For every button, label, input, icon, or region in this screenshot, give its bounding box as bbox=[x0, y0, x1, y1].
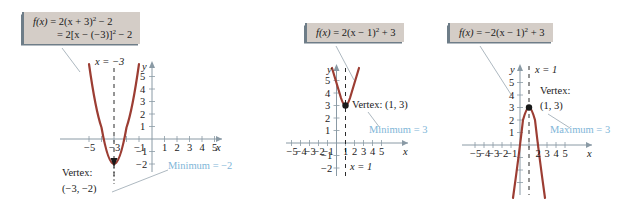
formula-line-2: = 2[x − (−3)]2 − 2 bbox=[33, 28, 132, 41]
y-tick-label: 2 bbox=[325, 113, 330, 124]
y-tick-label: −2 bbox=[321, 163, 332, 174]
x-tick-label: 5 bbox=[563, 148, 568, 159]
y-tick-label: 1 bbox=[509, 127, 514, 138]
y-tick-label: 3 bbox=[325, 100, 330, 111]
axis-of-symmetry-label-1: x = −3 bbox=[95, 56, 124, 67]
y-tick-label: 3 bbox=[140, 96, 145, 107]
x-tick-label: 3 bbox=[545, 148, 550, 159]
y-axis-label-2: y bbox=[327, 64, 332, 75]
formula-line-1: f(x) = −2(x − 1)2 + 3 bbox=[459, 26, 545, 39]
formula-box-2: f(x) = 2(x − 1)2 + 3 bbox=[305, 23, 404, 42]
y-tick-label: −1 bbox=[321, 150, 332, 161]
x-tick-label: 1 bbox=[162, 142, 167, 153]
minimum-label-2: Minimum = 3 bbox=[369, 124, 427, 135]
x-tick-label: −3 bbox=[109, 142, 120, 153]
vertex-label-2: Vertex: (1, 3) bbox=[352, 99, 408, 110]
panel-3: f(x) = −2(x − 1)2 + 3 bbox=[420, 0, 640, 202]
maximum-label-3: Maximum = 3 bbox=[550, 124, 610, 135]
quadratic-vertex-form-figure: f(x) = 2(x + 3)2 − 2 = 2[x − (−3)]2 − 2 bbox=[0, 0, 640, 202]
formula-line-1: f(x) = 2(x − 1)2 + 3 bbox=[316, 26, 396, 39]
x-axis-label-3: x bbox=[587, 148, 592, 159]
x-tick-label: 4 bbox=[554, 148, 559, 159]
y-tick-label: 5 bbox=[325, 75, 330, 86]
y-axis-1 bbox=[149, 61, 155, 172]
y-axis-label-3: y bbox=[510, 64, 515, 75]
x-tick-label: 1 bbox=[343, 146, 348, 157]
y-tick-label: 4 bbox=[140, 84, 145, 95]
formula-line-1: f(x) = 2(x + 3)2 − 2 bbox=[33, 15, 132, 28]
formula-box-1: f(x) = 2(x + 3)2 − 2 = 2[x − (−3)]2 − 2 bbox=[22, 12, 140, 44]
x-tick-label: 2 bbox=[352, 146, 357, 157]
vertex-label-3: Vertex: bbox=[540, 85, 570, 96]
x-tick-label: 2 bbox=[175, 142, 180, 153]
vertex-dot-2 bbox=[342, 102, 348, 108]
vertex-point-1: (−3, −2) bbox=[62, 183, 97, 194]
leader-line-minimum-1 bbox=[112, 170, 168, 192]
y-tick-label: −1 bbox=[136, 146, 147, 157]
y-tick-label: 1 bbox=[325, 125, 330, 136]
x-tick-label: 4 bbox=[370, 146, 375, 157]
leader-line-formula-1 bbox=[62, 48, 80, 72]
x-tick-label: −1 bbox=[506, 148, 517, 159]
x-tick-label: 3 bbox=[361, 146, 366, 157]
x-tick-label: 2 bbox=[536, 148, 541, 159]
x-tick-label: 5 bbox=[212, 142, 217, 153]
x-tick-label: 3 bbox=[187, 142, 192, 153]
formula-box-3: f(x) = −2(x − 1)2 + 3 bbox=[448, 23, 553, 42]
leader-line-formula-3 bbox=[480, 46, 512, 96]
panel-1: f(x) = 2(x + 3)2 − 2 = 2[x − (−3)]2 − 2 bbox=[0, 0, 228, 202]
axis-of-symmetry-label-2: x = 1 bbox=[350, 161, 372, 172]
y-tick-label: 5 bbox=[509, 77, 514, 88]
x-axis-label-2: x bbox=[403, 146, 408, 157]
panel-2: f(x) = 2(x − 1)2 + 3 bbox=[228, 0, 420, 202]
y-tick-label: 4 bbox=[325, 88, 330, 99]
y-tick-label: −2 bbox=[136, 159, 147, 170]
vertex-dot-3 bbox=[526, 104, 532, 110]
x-tick-label: 4 bbox=[200, 142, 205, 153]
y-tick-label: 1 bbox=[140, 121, 145, 132]
vertex-label-1: Vertex: bbox=[62, 167, 92, 178]
x-tick-label: 5 bbox=[379, 146, 384, 157]
y-tick-label: 4 bbox=[509, 90, 514, 101]
y-tick-label: 2 bbox=[140, 109, 145, 120]
y-tick-label: 2 bbox=[509, 115, 514, 126]
leader-line-formula-2 bbox=[336, 46, 354, 80]
y-tick-label: 5 bbox=[140, 71, 145, 82]
minimum-label-1: Minimum = −2 bbox=[168, 160, 232, 171]
x-tick-label: −5 bbox=[84, 142, 95, 153]
axis-of-symmetry-label-3: x = 1 bbox=[535, 64, 557, 75]
y-tick-label: 3 bbox=[509, 102, 514, 113]
vertex-point-3: (1, 3) bbox=[540, 100, 563, 111]
